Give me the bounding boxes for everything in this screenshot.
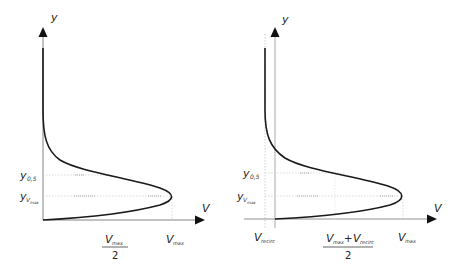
y-axis-label: y [281, 13, 289, 26]
right-diagram: y V y 0,5 y V max V recirc V max + V rec… [236, 13, 443, 261]
vrecirc-sub: recirc [261, 238, 275, 244]
x-axis-label: V [434, 202, 443, 215]
vmid-label: V max + V recirc 2 [323, 232, 374, 261]
vmid-a-sub: max [333, 239, 344, 245]
x-axis-arrow-icon [427, 215, 437, 224]
diagram-canvas: y V y 0,5 y V max V max 2 V max [0, 0, 454, 276]
vmax-half-label: V max 2 [102, 233, 128, 261]
x-axis-arrow-icon [195, 216, 205, 225]
velocity-curve [43, 48, 172, 220]
vmax-sub: max [405, 238, 416, 244]
velocity-curve [265, 48, 402, 219]
left-diagram: y V y 0,5 y V max V max 2 V max [19, 11, 211, 261]
y05-sub: 0,5 [250, 173, 260, 180]
vmax-half-den: 2 [112, 250, 118, 261]
yvmax-subsub: max [247, 200, 256, 205]
y-axis-arrow-icon [271, 27, 280, 37]
vrecirc-label: V recirc [254, 231, 275, 244]
vmid-b-sub: recirc [360, 239, 374, 245]
yvmax-subsub: max [30, 200, 39, 205]
vmax-half-num-sub: max [112, 240, 123, 246]
y-axis-arrow-icon [39, 27, 48, 37]
vmid-den: 2 [345, 250, 351, 261]
yvmax-label: y V max [19, 190, 39, 205]
vmax-label: V max [166, 233, 184, 246]
vmax-sub: max [173, 240, 184, 246]
y05-main: y [19, 169, 27, 182]
yvmax-label: y V max [236, 190, 256, 205]
y05-label: y 0,5 [242, 167, 260, 180]
y05-label: y 0,5 [19, 169, 37, 182]
vmax-label: V max [398, 231, 416, 244]
y05-main: y [242, 167, 250, 180]
vmid-plus: + [344, 233, 352, 244]
y-axis-label: y [50, 11, 58, 24]
y05-sub: 0,5 [27, 175, 37, 182]
x-axis-label: V [202, 202, 211, 215]
